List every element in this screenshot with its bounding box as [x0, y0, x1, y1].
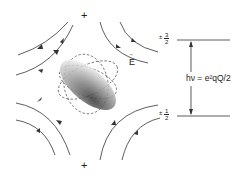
transition-energy-label: hν = e²qQ/2 [186, 74, 231, 83]
charge-bottom: + [81, 160, 87, 171]
arrow-up-icon [189, 41, 193, 47]
level-lower-label: ± 1 2 [164, 108, 169, 121]
arrow-down-icon [189, 109, 193, 115]
quadrupole-field-diagram [0, 0, 247, 178]
field-label: E [129, 58, 135, 67]
charge-top: + [81, 10, 87, 21]
level-upper-label: ± 3 2 [164, 32, 169, 45]
